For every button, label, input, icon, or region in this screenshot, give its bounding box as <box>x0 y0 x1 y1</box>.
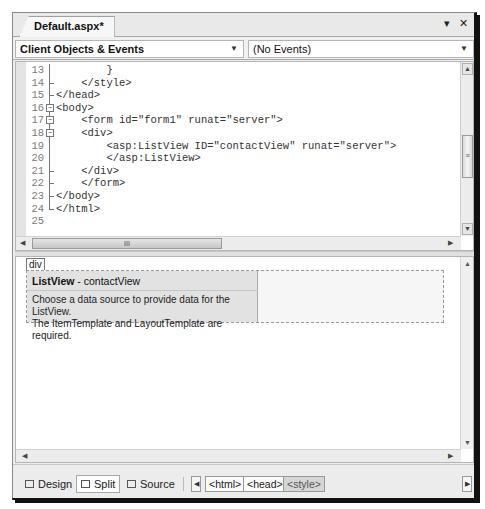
code-line[interactable]: 13 } <box>26 64 396 77</box>
fold-marker[interactable]: − <box>44 127 56 140</box>
scroll-right-arrow-icon[interactable]: ▶ <box>448 452 453 460</box>
design-horizontal-scrollbar[interactable]: ◀ ▶ <box>16 449 461 462</box>
scroll-left-arrow-icon[interactable]: ◀ <box>22 452 27 460</box>
design-view-icon <box>25 480 34 488</box>
listview-title: ListView - contactView <box>32 275 140 287</box>
chevron-down-icon: ▼ <box>460 44 468 53</box>
fold-marker[interactable]: − <box>44 114 56 127</box>
code-vertical-scrollbar[interactable]: ▲ ≡ ▼ <box>460 62 473 236</box>
breadcrumb-style[interactable]: <style> <box>283 476 325 492</box>
tab-controls: ▾ ✕ <box>438 17 468 30</box>
code-hscroll-thumb[interactable]: III <box>32 238 222 249</box>
listview-control-id: contactView <box>84 275 140 287</box>
fold-marker <box>44 64 56 77</box>
document-tab-strip: Default.aspx* ▾ ✕ <box>13 13 474 37</box>
code-text[interactable]: </body> <box>56 190 100 203</box>
line-number: 14 <box>26 77 44 90</box>
breadcrumb-head[interactable]: <head> <box>243 476 287 492</box>
scroll-down-arrow-icon[interactable]: ▼ <box>462 223 473 235</box>
design-view-button[interactable]: Design <box>21 475 76 493</box>
code-text[interactable]: <div> <box>56 127 113 140</box>
client-objects-value: Client Objects & Events <box>20 43 144 55</box>
fold-marker <box>44 89 56 102</box>
view-switcher-bar: Design Split Source ◀ <html> <head> <sty… <box>13 464 474 498</box>
document-tab-default-aspx[interactable]: Default.aspx* <box>19 16 115 37</box>
source-view-button[interactable]: Source <box>123 475 179 493</box>
code-vscroll-thumb[interactable]: ≡ <box>462 135 473 178</box>
split-view-icon <box>81 480 90 488</box>
window-menu-icon[interactable]: ▾ <box>444 17 450 29</box>
editor-window: Default.aspx* ▾ ✕ Client Objects & Event… <box>12 12 477 500</box>
code-line[interactable]: 21 </div> <box>26 165 396 178</box>
design-vertical-scrollbar[interactable]: ▲ ▼ <box>460 257 473 449</box>
code-lines[interactable]: 13 }14 </style>15</head>16−<body>17− <fo… <box>26 64 396 228</box>
code-text[interactable]: } <box>56 64 113 77</box>
code-line[interactable]: 16−<body> <box>26 102 396 115</box>
code-line[interactable]: 25 <box>26 215 396 228</box>
listview-title-separator: - <box>74 275 83 287</box>
listview-control-type: ListView <box>32 275 74 287</box>
source-code-pane[interactable]: 13 }14 </style>15</head>16−<body>17− <fo… <box>15 61 474 251</box>
collapse-icon[interactable]: − <box>46 116 54 124</box>
events-value: (No Events) <box>253 43 311 55</box>
breadcrumb-scroll-right-icon[interactable]: ▶ <box>462 476 472 492</box>
line-number: 20 <box>26 152 44 165</box>
code-line[interactable]: 22 </form> <box>26 177 396 190</box>
client-objects-dropdown[interactable]: Client Objects & Events ▼ <box>15 40 244 58</box>
collapse-icon[interactable]: − <box>46 129 54 137</box>
code-line[interactable]: 24</html> <box>26 203 396 216</box>
code-line[interactable]: 15</head> <box>26 89 396 102</box>
events-dropdown[interactable]: (No Events) ▼ <box>248 40 474 58</box>
scroll-up-arrow-icon[interactable]: ▲ <box>464 260 471 267</box>
line-number: 19 <box>26 140 44 153</box>
listview-description-line-2: The ItemTemplate and LayoutTemplate are … <box>32 318 257 342</box>
code-line[interactable]: 17− <form id="form1" runat="server"> <box>26 114 396 127</box>
scroll-left-arrow-icon[interactable]: ◀ <box>20 239 25 247</box>
breadcrumb-scroll-left-icon[interactable]: ◀ <box>191 476 201 492</box>
line-number: 25 <box>26 215 44 228</box>
line-number: 13 <box>26 64 44 77</box>
fold-marker <box>44 165 56 178</box>
code-text[interactable]: <asp:ListView ID="contactView" runat="se… <box>56 140 396 153</box>
fold-marker <box>44 77 56 90</box>
scroll-right-arrow-icon[interactable]: ▶ <box>448 239 453 247</box>
breadcrumb-html[interactable]: <html> <box>205 476 245 492</box>
fold-marker <box>44 152 56 165</box>
code-text[interactable]: </form> <box>56 177 125 190</box>
listview-placeholder-panel: ListView - contactView Choose a data sou… <box>27 271 258 322</box>
code-horizontal-scrollbar[interactable]: ◀ III ▶ <box>16 236 461 250</box>
listview-description-line-1: Choose a data source to provide data for… <box>32 294 257 318</box>
design-surface-pane[interactable]: div ListView - contactView Choose a data… <box>15 256 474 463</box>
close-icon[interactable]: ✕ <box>459 17 468 29</box>
split-view-label: Split <box>94 478 115 490</box>
selection-margin <box>16 62 26 236</box>
line-number: 23 <box>26 190 44 203</box>
code-line[interactable]: 20 </asp:ListView> <box>26 152 396 165</box>
source-view-label: Source <box>140 478 175 490</box>
scroll-up-arrow-icon[interactable]: ▲ <box>462 63 473 75</box>
code-text[interactable]: </head> <box>56 89 100 102</box>
fold-marker <box>44 140 56 153</box>
source-view-icon <box>127 480 136 488</box>
code-text[interactable]: </div> <box>56 165 119 178</box>
code-text[interactable]: <body> <box>56 102 94 115</box>
fold-marker <box>44 203 56 216</box>
fold-marker <box>44 215 56 228</box>
split-view-button[interactable]: Split <box>76 475 120 493</box>
code-text[interactable]: <form id="form1" runat="server"> <box>56 114 283 127</box>
code-line[interactable]: 23</body> <box>26 190 396 203</box>
fold-marker <box>44 190 56 203</box>
listview-control[interactable]: ListView - contactView Choose a data sou… <box>26 270 444 323</box>
line-number: 21 <box>26 165 44 178</box>
line-number: 15 <box>26 89 44 102</box>
collapse-icon[interactable]: − <box>46 104 54 112</box>
code-text[interactable]: </asp:ListView> <box>56 152 201 165</box>
code-line[interactable]: 18− <div> <box>26 127 396 140</box>
code-line[interactable]: 14 </style> <box>26 77 396 90</box>
fold-marker[interactable]: − <box>44 102 56 115</box>
code-line[interactable]: 19 <asp:ListView ID="contactView" runat=… <box>26 140 396 153</box>
scroll-down-arrow-icon[interactable]: ▼ <box>464 439 471 446</box>
line-number: 18 <box>26 127 44 140</box>
code-text[interactable]: </html> <box>56 203 100 216</box>
code-text[interactable]: </style> <box>56 77 132 90</box>
